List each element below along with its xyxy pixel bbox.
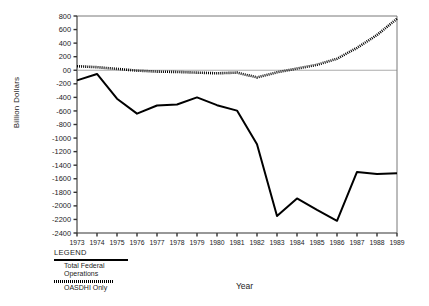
x-axis-tick-label: 1985 (309, 239, 324, 246)
x-axis-tick-label: 1989 (389, 239, 404, 246)
y-axis-tick-label: -2200 (52, 215, 71, 224)
x-axis-tick-label: 1973 (69, 239, 84, 246)
legend-label-line1: OASDHI Only (64, 284, 128, 292)
x-axis-tick-label: 1978 (169, 239, 184, 246)
chart-legend: LEGEND Total Federal Operations OASDHI O… (54, 249, 128, 293)
x-axis-tick-label: 1981 (229, 239, 244, 246)
x-axis-tick-label: 1988 (369, 239, 384, 246)
x-axis-tick-label: 1979 (189, 239, 204, 246)
y-axis-tick-label: -800 (56, 120, 71, 129)
x-axis-tick-label: 1977 (149, 239, 164, 246)
legend-solid-swatch (54, 259, 128, 261)
x-axis-tick-label: 1976 (129, 239, 144, 246)
legend-dotted-swatch (54, 280, 114, 283)
series-line-total-federal-operations (77, 74, 397, 221)
y-axis-tick-label: -400 (56, 93, 71, 102)
chart-root: Billion Dollars Year 80060040020000-200-… (0, 0, 429, 306)
y-axis-tick-label: -1000 (52, 134, 71, 143)
legend-title: LEGEND (54, 249, 128, 258)
y-axis-tick-label: 00 (63, 66, 71, 75)
y-axis-tick-label: -2400 (52, 229, 71, 238)
y-axis-tick-label: 400 (59, 39, 71, 48)
legend-label-line2: Operations (64, 270, 128, 278)
x-axis-tick-label: 1974 (89, 239, 104, 246)
x-axis-tick-label: 1980 (209, 239, 224, 246)
y-axis-tick-label: 200 (59, 52, 71, 61)
legend-entry-total-federal-operations: Total Federal Operations (54, 262, 128, 279)
legend-entry-oasdhi-only: OASDHI Only (54, 284, 128, 292)
x-axis-tick-label: 1983 (269, 239, 284, 246)
x-axis-tick-label: 1975 (109, 239, 124, 246)
y-axis-tick-label: -200 (56, 79, 71, 88)
x-axis-tick-label: 1986 (329, 239, 344, 246)
y-axis-tick-label: -1800 (52, 188, 71, 197)
y-axis-tick-label: 800 (59, 12, 71, 21)
series-line-oasdhi-only (77, 19, 397, 78)
y-axis-tick-label: -2000 (52, 201, 71, 210)
y-axis-tick-label: -1400 (52, 161, 71, 170)
y-axis-tick-label: -1600 (52, 174, 71, 183)
x-axis-tick-label: 1984 (289, 239, 304, 246)
x-axis-tick-label: 1987 (349, 239, 364, 246)
x-axis-tick-label: 1982 (249, 239, 264, 246)
y-axis-tick-label: 600 (59, 25, 71, 34)
y-axis-tick-label: -1200 (52, 147, 71, 156)
y-axis-tick-label: -600 (56, 107, 71, 116)
legend-label-line1: Total Federal (64, 262, 128, 270)
